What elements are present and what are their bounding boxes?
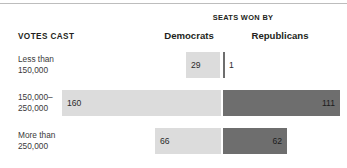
row-label: Less than 150,000 <box>18 54 62 75</box>
democrat-bar: 29 <box>186 52 220 78</box>
republican-bar: 62 <box>223 128 287 154</box>
republican-bar-value: 111 <box>317 99 340 108</box>
democrat-bar-value: 66 <box>155 137 175 146</box>
republican-bar-value: 1 <box>226 52 234 78</box>
democrat-bar: 160 <box>62 90 221 116</box>
republicans-column-header: Republicans <box>238 30 322 41</box>
row-label-line-2: 150,000 <box>18 65 62 76</box>
row-label-line-1: Less than <box>18 54 62 65</box>
chart-row: More than 250,000 66 62 <box>0 128 347 162</box>
chart-row: Less than 150,000 29 1 <box>0 52 347 86</box>
republican-bar <box>223 52 225 78</box>
democrats-column-header: Democrats <box>156 30 222 41</box>
democrat-bar-value: 29 <box>186 61 206 70</box>
row-label-line-1: More than <box>18 130 62 141</box>
diverging-bar-chart: SEATS WON BY VOTES CAST Democrats Republ… <box>0 0 347 168</box>
democrat-bar: 66 <box>155 128 221 154</box>
republican-bar-value: 62 <box>267 137 287 146</box>
row-label-line-1: 150,000– <box>18 92 62 103</box>
row-label-line-2: 250,000 <box>18 141 62 152</box>
republican-bar: 111 <box>223 90 340 116</box>
chart-row: 150,000– 250,000 160 111 <box>0 90 347 124</box>
seats-won-by-header: SEATS WON BY <box>178 13 308 22</box>
votes-cast-header: VOTES CAST <box>18 32 74 41</box>
top-divider-rule <box>0 3 347 4</box>
row-label: 150,000– 250,000 <box>18 92 62 113</box>
row-label-line-2: 250,000 <box>18 103 62 114</box>
democrat-bar-value: 160 <box>62 99 86 108</box>
row-label: More than 250,000 <box>18 130 62 151</box>
